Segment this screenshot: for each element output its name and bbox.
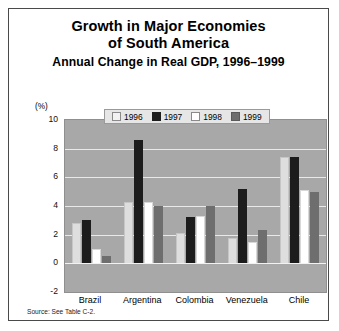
bar-brazil-1999	[102, 256, 111, 263]
legend-swatch-1998	[191, 112, 200, 121]
x-axis-category-labels: BrazilArgentinaColombiaVenezuelaChile	[64, 295, 327, 307]
bar-chile-1997	[290, 157, 299, 263]
legend-swatch-1999	[231, 112, 240, 121]
chart-title-line-2: of South America	[9, 35, 328, 52]
plot-area	[64, 119, 327, 293]
legend-swatch-1996	[112, 112, 121, 121]
bar-chile-1996	[280, 157, 289, 263]
source-note: Source: See Table C-2.	[27, 308, 95, 315]
y-axis-tick-label: 2	[53, 229, 58, 239]
y-axis-tick-label: 10	[48, 114, 58, 124]
bar-venezuela-1999	[258, 230, 267, 263]
x-axis-label-chile: Chile	[289, 295, 310, 305]
bar-group	[222, 120, 274, 292]
legend-swatch-1997	[152, 112, 161, 121]
x-axis-label-brazil: Brazil	[79, 295, 102, 305]
bar-argentina-1998	[144, 202, 153, 264]
bar-argentina-1996	[124, 202, 133, 264]
y-axis-unit-label: (%)	[35, 102, 48, 111]
x-axis-label-venezuela: Venezuela	[226, 295, 268, 305]
bar-colombia-1998	[196, 216, 205, 263]
y-axis: 1086420-2	[34, 119, 62, 293]
chart-subtitle: Annual Change in Real GDP, 1996–1999	[9, 54, 328, 70]
legend-label-1998: 1998	[203, 112, 222, 122]
bar-chile-1998	[300, 190, 309, 263]
bar-group	[117, 120, 169, 292]
legend-item-1998[interactable]: 1998	[191, 112, 222, 122]
bar-brazil-1998	[92, 249, 101, 263]
bar-brazil-1996	[72, 223, 81, 263]
bar-argentina-1999	[154, 206, 163, 263]
chart-legend: 1996199719981999	[104, 109, 270, 124]
legend-label-1997: 1997	[164, 112, 183, 122]
bar-venezuela-1998	[248, 242, 257, 264]
bar-argentina-1997	[134, 140, 143, 263]
bar-colombia-1996	[176, 233, 185, 263]
bar-group	[274, 120, 326, 292]
legend-item-1997[interactable]: 1997	[152, 112, 183, 122]
bar-group	[169, 120, 221, 292]
legend-label-1999: 1999	[243, 112, 262, 122]
bar-colombia-1997	[186, 217, 195, 263]
chart-figure: Growth in Major Economies of South Ameri…	[8, 8, 329, 321]
legend-item-1996[interactable]: 1996	[112, 112, 143, 122]
bar-chile-1999	[310, 192, 319, 264]
bar-venezuela-1997	[238, 189, 247, 264]
y-axis-tick-label: 6	[53, 171, 58, 181]
legend-item-1999[interactable]: 1999	[231, 112, 262, 122]
y-axis-tick-label: 8	[53, 143, 58, 153]
chart-title-line-1: Growth in Major Economies	[9, 18, 328, 35]
title-block: Growth in Major Economies of South Ameri…	[9, 18, 328, 70]
x-axis-label-argentina: Argentina	[123, 295, 162, 305]
y-axis-tick-label: -2	[50, 286, 58, 296]
legend-label-1996: 1996	[124, 112, 143, 122]
y-axis-tick-label: 4	[53, 200, 58, 210]
bar-colombia-1999	[206, 206, 215, 263]
y-axis-tick-label: 0	[53, 257, 58, 267]
bar-brazil-1997	[82, 220, 91, 263]
bar-group	[65, 120, 117, 292]
x-axis-label-colombia: Colombia	[175, 295, 213, 305]
bar-venezuela-1996	[228, 238, 237, 264]
